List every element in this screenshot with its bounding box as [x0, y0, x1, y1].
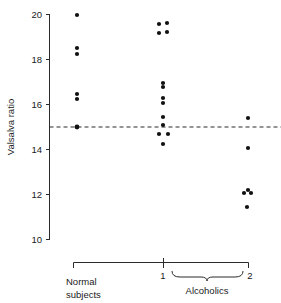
data-point — [246, 116, 250, 120]
series-normal-subjects — [75, 13, 80, 129]
data-point — [157, 132, 161, 136]
data-point — [161, 81, 165, 85]
group-label-normal-line2: subjects — [66, 289, 101, 300]
data-point — [245, 205, 249, 209]
chart-canvas: 20 18 16 14 12 10 Valsalva ratio — [0, 0, 281, 303]
y-axis-title: Valsalva ratio — [5, 99, 16, 155]
data-point — [75, 52, 79, 56]
y-tick-label-12: 12 — [31, 189, 42, 200]
data-point — [246, 146, 250, 150]
x-axis-span — [74, 258, 249, 268]
data-point — [242, 191, 246, 195]
data-point — [249, 191, 253, 195]
valsalva-ratio-scatter-plot: 20 18 16 14 12 10 Valsalva ratio — [0, 0, 281, 303]
data-point — [161, 115, 165, 119]
data-point — [165, 30, 169, 34]
data-point — [161, 101, 165, 105]
series-alcoholics-grade-2 — [242, 116, 253, 209]
y-tick-label-16: 16 — [31, 99, 42, 110]
data-point — [161, 85, 165, 89]
y-tick-label-20: 20 — [31, 9, 42, 20]
data-point — [75, 46, 79, 50]
group-label-alcoholics: Alcoholics — [186, 285, 229, 296]
data-point — [165, 21, 169, 25]
data-point — [75, 125, 80, 130]
x-tick-label-2: 2 — [247, 270, 252, 281]
data-point — [75, 97, 79, 101]
data-point — [157, 31, 161, 35]
data-point — [246, 188, 250, 192]
data-point — [75, 13, 79, 17]
data-point — [157, 22, 161, 26]
group-label-normal-line1: Normal — [66, 276, 97, 287]
y-tick-label-10: 10 — [31, 234, 42, 245]
data-point — [161, 96, 165, 100]
y-tick-label-18: 18 — [31, 54, 42, 65]
y-tick-label-14: 14 — [31, 144, 42, 155]
data-point — [161, 123, 165, 127]
alcoholics-bracket — [172, 271, 243, 281]
y-axis-ticks — [46, 15, 50, 240]
data-point — [166, 132, 170, 136]
x-tick-label-1: 1 — [160, 270, 165, 281]
data-point — [161, 142, 165, 146]
data-point — [75, 92, 79, 96]
